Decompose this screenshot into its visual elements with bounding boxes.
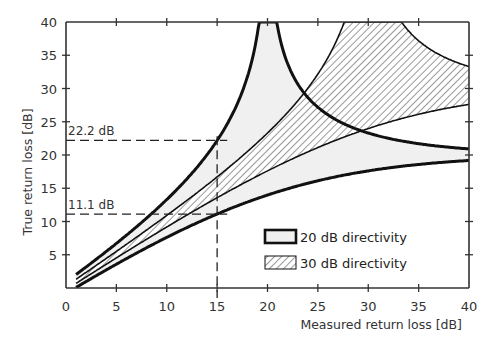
x-tick-label: 35: [410, 299, 427, 314]
x-tick-label: 20: [259, 299, 276, 314]
x-tick-label: 40: [461, 299, 478, 314]
legend-swatch-20db: [265, 230, 296, 243]
y-tick-label: 35: [40, 48, 57, 63]
y-tick-label: 15: [40, 181, 57, 196]
x-tick-label: 25: [310, 299, 327, 314]
legend-label-20db: 20 dB directivity: [300, 230, 407, 245]
legend-swatch-30db: [265, 256, 296, 269]
x-tick-label: 5: [112, 299, 120, 314]
x-tick-label: 15: [209, 299, 226, 314]
x-tick-label: 0: [62, 299, 70, 314]
x-tick-label: 30: [360, 299, 377, 314]
y-tick-label: 20: [40, 148, 57, 163]
y-tick-label: 5: [49, 248, 57, 263]
chart: 22.2 dB 11.1 dB 051015202530354051015202…: [0, 0, 490, 346]
y-tick-label: 30: [40, 82, 57, 97]
y-tick-label: 40: [40, 15, 57, 30]
y-axis-title: True return loss [dB]: [20, 108, 35, 236]
y-tick-label: 25: [40, 115, 57, 130]
plot-area: [76, 22, 469, 288]
x-tick-label: 10: [158, 299, 175, 314]
legend-label-30db: 30 dB directivity: [300, 256, 407, 271]
x-axis-title: Measured return loss [dB]: [300, 317, 462, 332]
annotation-11-1: 11.1 dB: [68, 198, 114, 212]
annotation-22-2: 22.2 dB: [68, 124, 114, 138]
y-tick-label: 10: [40, 215, 57, 230]
legend: 20 dB directivity 30 dB directivity: [265, 230, 407, 271]
